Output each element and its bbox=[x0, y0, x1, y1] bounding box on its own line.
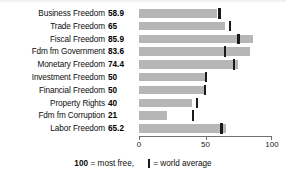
world-average-tick bbox=[205, 72, 207, 83]
row-plot-area bbox=[139, 46, 272, 59]
world-average-tick bbox=[192, 110, 194, 121]
row-plot-area bbox=[139, 85, 272, 98]
row-plot-area bbox=[139, 21, 272, 34]
row-value-label: 65.2 bbox=[108, 123, 134, 134]
row-value-label: 50 bbox=[108, 72, 134, 83]
row-category-label: Trade Freedom bbox=[0, 21, 105, 32]
x-axis-tick-label: 0 bbox=[137, 140, 141, 150]
legend-most-free-number: 100 bbox=[74, 159, 88, 168]
value-bar bbox=[139, 99, 192, 108]
chart-row: Business Freedom58.9 bbox=[0, 8, 286, 21]
row-value-label: 50 bbox=[108, 85, 134, 96]
world-average-tick bbox=[224, 46, 226, 57]
value-bar bbox=[139, 111, 167, 120]
chart-row: Fdm fm Corruption21 bbox=[0, 110, 286, 123]
x-axis-tick-labels: 050100 bbox=[139, 140, 272, 151]
row-plot-area bbox=[139, 110, 272, 123]
world-average-tick bbox=[233, 59, 235, 70]
chart-row: Property Rights40 bbox=[0, 98, 286, 111]
world-average-marker-icon bbox=[148, 159, 150, 168]
world-average-tick bbox=[237, 34, 239, 45]
value-bar bbox=[139, 124, 226, 133]
row-plot-area bbox=[139, 123, 272, 136]
row-plot-area bbox=[139, 72, 272, 85]
row-category-label: Fdm fm Corruption bbox=[0, 110, 105, 121]
row-category-label: Labor Freedom bbox=[0, 123, 105, 134]
row-value-label: 85.9 bbox=[108, 34, 134, 45]
row-category-label: Monetary Freedom bbox=[0, 59, 105, 70]
row-value-label: 40 bbox=[108, 98, 134, 109]
row-plot-area bbox=[139, 8, 272, 21]
value-bar bbox=[139, 86, 206, 95]
value-bar bbox=[139, 35, 253, 44]
row-plot-area bbox=[139, 59, 272, 72]
world-average-tick bbox=[204, 85, 206, 96]
legend-most-free-text: = most free, bbox=[91, 159, 134, 168]
chart-row: Financial Freedom50 bbox=[0, 85, 286, 98]
row-plot-area bbox=[139, 34, 272, 47]
value-bar bbox=[139, 9, 217, 18]
value-bar bbox=[139, 73, 206, 82]
row-category-label: Fdm fm Government bbox=[0, 46, 105, 57]
world-average-tick bbox=[196, 98, 198, 109]
value-bar bbox=[139, 22, 225, 31]
chart-row: Fdm fm Government83.6 bbox=[0, 46, 286, 59]
row-value-label: 65 bbox=[108, 21, 134, 32]
chart-row: Labor Freedom65.2 bbox=[0, 123, 286, 136]
row-value-label: 83.6 bbox=[108, 46, 134, 57]
row-category-label: Fiscal Freedom bbox=[0, 34, 105, 45]
chart-rows: Business Freedom58.9Trade Freedom65Fisca… bbox=[0, 8, 286, 136]
top-edge-clip bbox=[0, 0, 286, 3]
row-category-label: Business Freedom bbox=[0, 8, 105, 19]
world-average-tick bbox=[218, 8, 220, 19]
row-category-label: Financial Freedom bbox=[0, 85, 105, 96]
x-axis-tick-label: 50 bbox=[201, 140, 210, 150]
chart-row: Investment Freedom50 bbox=[0, 72, 286, 85]
row-value-label: 74.4 bbox=[108, 59, 134, 70]
legend-world-average-text: = world average bbox=[153, 159, 211, 168]
legend-item-world-average: = world average bbox=[148, 159, 212, 168]
row-category-label: Property Rights bbox=[0, 98, 105, 109]
freedom-index-bar-chart: Business Freedom58.9Trade Freedom65Fisca… bbox=[0, 0, 286, 175]
row-category-label: Investment Freedom bbox=[0, 72, 105, 83]
chart-legend: 100 = most free, = world average bbox=[0, 156, 286, 170]
row-value-label: 21 bbox=[108, 110, 134, 121]
chart-row: Monetary Freedom74.4 bbox=[0, 59, 286, 72]
chart-row: Fiscal Freedom85.9 bbox=[0, 34, 286, 47]
legend-item-most-free: 100 = most free, bbox=[74, 159, 134, 168]
value-bar bbox=[139, 60, 238, 69]
row-plot-area bbox=[139, 98, 272, 111]
value-bar bbox=[139, 47, 250, 56]
x-axis-tick-label: 100 bbox=[265, 140, 278, 150]
row-value-label: 58.9 bbox=[108, 8, 134, 19]
world-average-tick bbox=[220, 123, 222, 134]
chart-row: Trade Freedom65 bbox=[0, 21, 286, 34]
world-average-tick bbox=[229, 21, 231, 32]
